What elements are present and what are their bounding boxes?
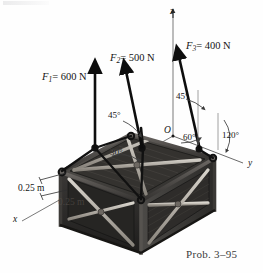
- figure-caption: Prob. 3–95: [186, 248, 237, 260]
- y-axis-label: y: [248, 159, 252, 169]
- force-label-f1: F1= 600 N: [42, 72, 87, 83]
- angle-120-label: 120°: [222, 131, 239, 140]
- dimension-upper-label: 0.25 m: [18, 184, 44, 194]
- force-label-f3: F3= 400 N: [186, 41, 231, 52]
- force-f3-value: = 400 N: [196, 40, 231, 51]
- force-f2-value: = 500 N: [120, 52, 155, 63]
- problem-figure: F1= 600 N F2= 500 N F3= 400 N z y x O 45…: [0, 0, 263, 273]
- origin-dot: [172, 135, 175, 138]
- dim-lower-tick: [40, 193, 43, 200]
- force-label-f2: F2= 500 N: [110, 53, 155, 64]
- crate: [59, 133, 217, 253]
- angle-f3-45-label: 45°: [176, 92, 189, 101]
- angle-f2-30-label: 30°: [110, 148, 123, 157]
- z-axis-label: z: [170, 7, 174, 17]
- x-axis-label: x: [13, 215, 17, 225]
- origin-label: O: [164, 126, 171, 136]
- angle-f3-60-label: 60°: [183, 133, 196, 142]
- force-f1-value: = 600 N: [52, 71, 87, 82]
- angle-f2-45-label: 45°: [108, 111, 121, 120]
- dimension-lower-label: 0.25 m: [58, 198, 84, 208]
